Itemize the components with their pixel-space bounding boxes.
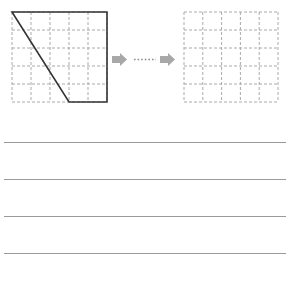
arrow-right-icon [160, 53, 175, 66]
answer-line [4, 142, 286, 143]
trapezoid-shape [12, 12, 107, 102]
left-grid [12, 12, 107, 102]
answer-line [4, 253, 286, 254]
answer-line [4, 179, 286, 180]
answer-line [4, 216, 286, 217]
transform-arrow [112, 53, 175, 66]
figure-diagram [0, 0, 298, 120]
arrow-right-icon [112, 53, 127, 66]
right-grid [184, 12, 278, 102]
